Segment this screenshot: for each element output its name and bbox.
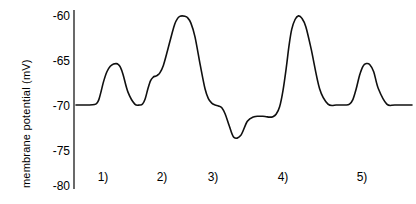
x-annotation-2: 2) — [157, 171, 168, 183]
x-annotation-1: 1) — [98, 171, 109, 183]
x-annotation-5: 5) — [357, 171, 368, 183]
x-annotation-4: 4) — [278, 171, 289, 183]
x-annotation-3: 3) — [208, 171, 219, 183]
membrane-potential-chart: membrane potential (mV) -60 -65 -70 -75 … — [0, 0, 416, 204]
x-tick-label-row: 1) 2) 3) 4) 5) — [0, 0, 416, 204]
